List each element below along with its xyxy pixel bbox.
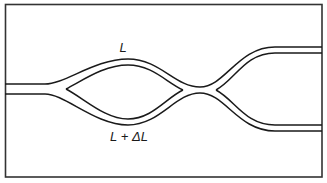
right-lower-inner-edge bbox=[216, 90, 322, 125]
upper-arm-inner bbox=[66, 65, 182, 89]
lower-arm-label: L + ΔL bbox=[110, 129, 148, 144]
mach-zehnder-diagram: L L + ΔL bbox=[0, 0, 327, 183]
upper-arm-label: L bbox=[119, 40, 126, 55]
upper-arm-inner-edge bbox=[66, 65, 183, 90]
waveguide-paths bbox=[5, 47, 322, 131]
diagram-frame bbox=[6, 5, 323, 178]
right-upper-inner-edge bbox=[216, 53, 322, 90]
lower-arm-inner-edge bbox=[66, 89, 183, 119]
